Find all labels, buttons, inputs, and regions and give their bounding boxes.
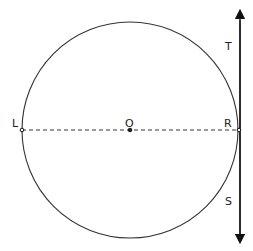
label-r: R [224,117,232,130]
circle-tangent-diagram: L O R T S [0,0,253,251]
label-s: S [225,195,232,208]
point-r [237,128,241,132]
label-t: T [224,40,232,53]
label-o: O [125,117,134,130]
point-l [20,128,24,132]
label-l: L [12,117,19,130]
